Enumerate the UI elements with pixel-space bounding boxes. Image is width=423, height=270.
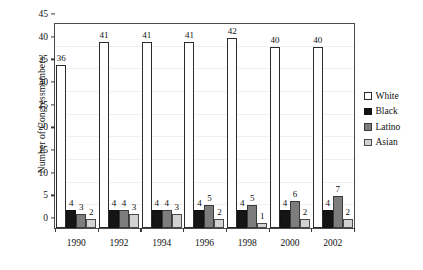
bar-value-label: 4 [165,199,170,208]
bar [247,205,257,228]
legend-item-black[interactable]: Black [364,104,400,120]
bar [227,38,237,228]
legend: WhiteBlackLatinoAsian [364,88,400,150]
bar-value-label: 3 [175,203,180,212]
bar-value-label: 41 [185,31,194,40]
bar [66,210,76,228]
x-axis-tick-label: 1992 [110,238,129,248]
x-axis-tick [55,228,56,232]
legend-label: Latino [376,122,401,132]
bar-groups: 36432414434144341452424514046240472 [55,24,354,228]
x-axis-tick [98,228,99,232]
legend-item-asian[interactable]: Asian [364,135,400,151]
bar [270,47,280,228]
bar-group-bars: 40462 [269,24,312,228]
bar [152,210,162,228]
y-axis-tick-label: 30 [39,77,56,87]
bar-value-label: 3 [132,203,137,212]
bar-latino-1998: 5 [247,24,257,228]
bar [313,47,323,228]
bar-white-2000: 40 [270,24,280,228]
bar [119,210,129,228]
bar-latino-2002: 7 [333,24,343,228]
bar-white-1996: 41 [184,24,194,228]
bar-value-label: 2 [89,208,94,217]
bar [214,219,224,228]
x-axis-tick [183,228,184,232]
bar-black-1994: 4 [152,24,162,228]
legend-label: Black [376,106,398,116]
y-axis-title: Number of Congressmembers [37,15,47,215]
bar-value-label: 36 [57,54,66,63]
bar-asian-1990: 2 [86,24,96,228]
bar [333,196,343,228]
y-axis-tick-label: 25 [39,100,56,110]
legend-swatch-icon [364,123,372,131]
legend-swatch-icon [364,139,372,147]
bar-latino-1994: 4 [162,24,172,228]
y-axis-tick-label: 20 [39,122,56,132]
x-axis-tick-label: 1998 [238,238,257,248]
legend-item-latino[interactable]: Latino [364,119,400,135]
bar [194,210,204,228]
x-axis-tick [311,228,312,232]
bar [76,214,86,228]
bar-value-label: 40 [313,36,322,45]
bar-group-bars: 41443 [140,24,183,228]
x-axis-tick-label: 2002 [323,238,342,248]
bar-black-2002: 4 [323,24,333,228]
bar [86,219,96,228]
y-axis-tick-label: 0 [43,213,55,223]
bar-group: 41452 [183,24,226,228]
legend-item-white[interactable]: White [364,88,400,104]
bar-value-label: 6 [293,190,298,199]
y-axis-tick-label: 35 [39,54,56,64]
bar-value-label: 4 [155,199,160,208]
bar [343,219,353,228]
bar-group: 41443 [98,24,141,228]
bar-value-label: 5 [250,194,255,203]
x-axis-tick [354,228,355,232]
bar-value-label: 4 [283,199,288,208]
bar-group-bars: 40472 [311,24,354,228]
bar-asian-1994: 3 [172,24,182,228]
y-axis-tick-label: 40 [39,32,56,42]
bar [257,223,267,228]
bar-group: 36432 [55,24,98,228]
bar-value-label: 5 [207,194,212,203]
bar-white-2002: 40 [313,24,323,228]
bar [142,42,152,228]
bar-group-bars: 41452 [183,24,226,228]
bar [162,210,172,228]
bar [172,214,182,228]
bar-value-label: 4 [197,199,202,208]
y-axis-tick-label: 10 [39,168,56,178]
bar-value-label: 4 [325,199,330,208]
bar-value-label: 4 [69,199,74,208]
bar [300,219,310,228]
bar-group: 40472 [311,24,354,228]
bar-value-label: 4 [122,199,127,208]
bar-white-1998: 42 [227,24,237,228]
bar-black-1998: 4 [237,24,247,228]
bar-chart-figure: Number of Congressmembers 36432414434144… [0,0,423,270]
bar-white-1990: 36 [56,24,66,228]
bar-value-label: 3 [79,203,84,212]
legend-swatch-icon [364,92,372,100]
bar-white-1994: 41 [142,24,152,228]
bar-value-label: 42 [228,27,237,36]
bar-group-bars: 41443 [98,24,141,228]
bar-asian-1996: 2 [214,24,224,228]
x-axis-tick-label: 1994 [152,238,171,248]
bar-group: 42451 [226,24,269,228]
bar-black-2000: 4 [280,24,290,228]
bar [323,210,333,228]
x-axis-tick [226,228,227,232]
bar-latino-1990: 3 [76,24,86,228]
bar-value-label: 2 [345,208,350,217]
plot-area: 36432414434144341452424514046240472 0510… [54,23,355,229]
legend-swatch-icon [364,108,372,116]
bar-group: 40462 [269,24,312,228]
bar-black-1996: 4 [194,24,204,228]
legend-label: White [376,91,399,101]
